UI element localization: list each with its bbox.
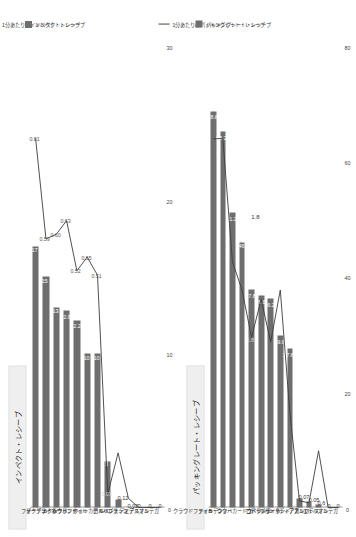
legend-label: パッキングレート・レシーブ — [205, 21, 270, 28]
axis-tick-label: 0 — [168, 507, 171, 513]
line-point-label: 0.63 — [60, 218, 70, 224]
axis-tick-label: 80 — [344, 44, 350, 50]
chart-legend: 1分あたりのパッキングレート・レシーブパッキングレート・レシーブ — [208, 4, 236, 44]
legend-item[interactable]: パッキングレート・レシーブ — [195, 21, 270, 28]
line-path — [35, 138, 159, 507]
legend-line-swatch-icon — [158, 23, 169, 24]
chart-legend: 1分あたりのインペクト・レシーブインペクト・レシーブ — [30, 4, 58, 44]
chart-title: パッキングレート・レシーブ — [190, 400, 200, 495]
legend-item[interactable]: インペクト・レシーブ — [25, 21, 85, 28]
charts-board: インペクト・レシーブドク17フォーデン15デ・ブライネ13B・シウバ12.8ハー… — [0, 0, 356, 537]
chart-title-box: パッキングレート・レシーブ — [186, 365, 204, 529]
value-axis-ticks: 020406080 — [342, 46, 356, 507]
line-series-overlay — [208, 46, 342, 507]
legend-bar-swatch-icon — [195, 21, 202, 28]
line-point-label: 0.52 — [70, 268, 80, 274]
annotation-label: 1.8 — [251, 214, 259, 220]
chart-panel-impact: インペクト・レシーブドク17フォーデン15デ・ブライネ13B・シウバ12.8ハー… — [0, 0, 178, 537]
plot-area: クラウドファイル68.8フォーデン65.2B・シウバ51.2ウォーカー46ドク3… — [208, 46, 342, 507]
axis-tick-label: 0 — [346, 507, 349, 513]
plot-area: ドク17フォーデン15デ・ブライネ13B・シウバ12.8ハーランド12.2クラウ… — [30, 46, 164, 507]
chart-panel-packing: パッキングレート・レシーブクラウドファイル68.8フォーデン65.2B・シウバ5… — [178, 0, 356, 537]
axis-tick-label: 10 — [166, 351, 172, 357]
line-point-label: 0.60 — [50, 232, 60, 238]
line-point-label: 0.55 — [81, 255, 91, 261]
category-label: ウォーカー — [217, 507, 242, 514]
axis-tick-label: 30 — [166, 44, 172, 50]
value-axis-ticks: 0102030 — [164, 46, 178, 507]
line-point-label: 1.8 — [246, 336, 253, 342]
chart-title: インペクト・レシーブ — [12, 411, 22, 484]
axis-tick-label: 40 — [344, 275, 350, 281]
line-point-label: 0.59 — [39, 236, 49, 242]
axis-tick-label: 60 — [344, 159, 350, 165]
line-path — [213, 138, 337, 507]
line-point-label: 0.03 — [101, 491, 111, 497]
line-point-label: 0.51 — [91, 273, 101, 279]
axis-tick-label: 20 — [166, 198, 172, 204]
axis-tick-label: 20 — [344, 390, 350, 396]
chart-title-box: インペクト・レシーブ — [8, 365, 26, 529]
legend-label: インペクト・レシーブ — [35, 21, 85, 28]
legend-bar-swatch-icon — [25, 21, 32, 28]
line-point-label: 0.81 — [29, 136, 39, 142]
